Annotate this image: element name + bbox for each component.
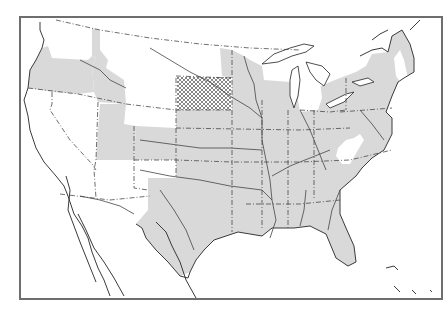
caribbean-islands (386, 266, 432, 294)
region-south-dakota (177, 77, 231, 110)
baja-coast (66, 176, 124, 296)
region-oregon (28, 46, 96, 94)
region-south-carolina (340, 186, 376, 216)
region-utah (96, 104, 136, 160)
us-distribution-map (0, 0, 448, 319)
region-idaho (92, 28, 126, 104)
